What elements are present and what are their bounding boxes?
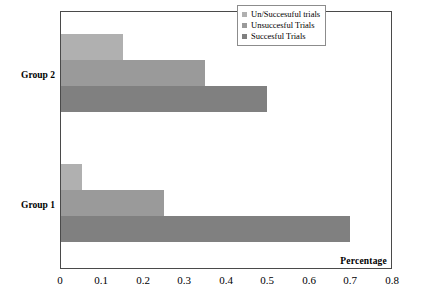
x-tick-0: 0 (40, 274, 80, 286)
legend-swatch-icon-succesful-trials (242, 34, 247, 39)
x-axis-title: Percentage (340, 256, 387, 266)
x-tick-3: 0.3 (164, 274, 204, 286)
bar-group2-unsuccesful-trials (61, 60, 205, 86)
bars-layer: Group 2 Group 1 Percentage (61, 12, 391, 268)
x-tick-2: 0.2 (123, 274, 163, 286)
legend: Un/Succesuful trials Unsuccesful Trials … (237, 5, 326, 46)
x-tick-1: 0.1 (81, 274, 121, 286)
bar-group1-unsuccesful-trials (61, 190, 164, 216)
x-tick-5: 0.5 (247, 274, 287, 286)
legend-item-succesful-trials: Succesful Trials (242, 31, 320, 42)
legend-label-unsuccesful-trials: Unsuccesful Trials (251, 20, 315, 31)
legend-item-un-succesuful-trials: Un/Succesuful trials (242, 9, 320, 20)
legend-label-succesful-trials: Succesful Trials (251, 31, 306, 42)
bar-group2-succesful-trials (61, 86, 267, 112)
bar-group1-succesful-trials (61, 216, 350, 242)
bar-group2-unsuccesuful-trials (61, 34, 123, 60)
legend-label-un-succesuful-trials: Un/Succesuful trials (251, 9, 320, 20)
legend-item-unsuccesful-trials: Unsuccesful Trials (242, 20, 320, 31)
category-label-group2-text: Group 2 (21, 70, 55, 80)
bar-chart: Group 2 Group 1 Percentage 0 0.1 0.2 0.3… (0, 0, 422, 300)
category-label-group1: Group 1 (0, 200, 55, 210)
x-tick-4: 0.4 (206, 274, 246, 286)
bar-group1-unsuccesuful-trials (61, 164, 82, 190)
legend-swatch-icon-un-succesuful-trials (242, 12, 247, 17)
x-tick-6: 0.6 (289, 274, 329, 286)
x-axis-tick-labels: 0 0.1 0.2 0.3 0.4 0.5 0.6 0.7 0.8 (0, 274, 422, 294)
x-tick-8: 0.8 (372, 274, 412, 286)
category-label-group1-text: Group 1 (21, 200, 55, 210)
category-label-group2: Group 2 (0, 70, 55, 80)
legend-swatch-icon-unsuccesful-trials (242, 23, 247, 28)
x-tick-7: 0.7 (330, 274, 370, 286)
